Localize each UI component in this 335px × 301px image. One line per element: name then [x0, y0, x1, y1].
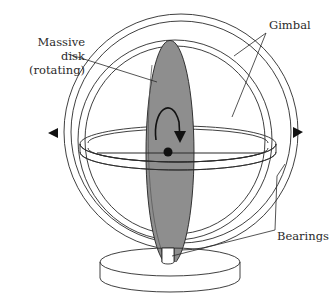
label-massive-line3: (rotating)	[27, 63, 85, 77]
label-massive-line2: disk	[27, 49, 85, 63]
base	[100, 248, 240, 292]
bearings-leader-line-1	[275, 164, 285, 230]
left-pivot-arrow-icon	[48, 128, 58, 138]
label-gimbal: Gimbal	[269, 18, 311, 32]
label-bearings: Bearings	[277, 229, 329, 243]
label-massive-disk: Massive disk (rotating)	[27, 35, 85, 77]
axle-center	[164, 148, 173, 157]
label-massive-line1: Massive	[27, 35, 85, 49]
